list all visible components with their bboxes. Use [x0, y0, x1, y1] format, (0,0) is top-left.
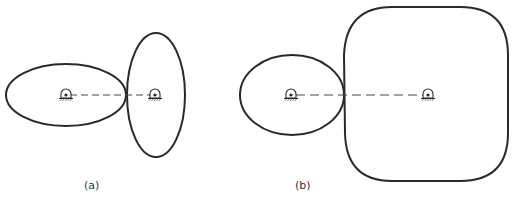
- pivot-icon: [421, 89, 435, 101]
- panel-a-label: (a): [84, 179, 99, 192]
- pivot-icon: [148, 89, 162, 101]
- pivot-icon: [59, 89, 73, 101]
- noncircular-gears-figure: (a) (b): [0, 0, 517, 201]
- pivot-icon: [284, 89, 298, 101]
- figure-drawing: [0, 0, 517, 201]
- panel-b-label: (b): [295, 179, 311, 192]
- panel-a: [6, 33, 185, 157]
- panel-b: [240, 7, 508, 181]
